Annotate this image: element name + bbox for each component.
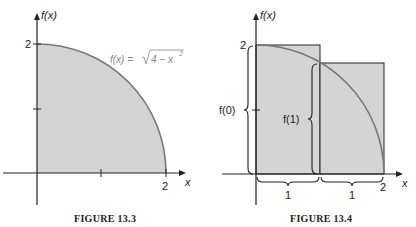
shaded-area [37, 44, 166, 173]
figure-caption: FIGURE 13.3 [74, 213, 136, 224]
x-tick-label: 2 [162, 180, 168, 192]
brace-label-width2: 1 [349, 189, 355, 201]
y-axis-label: f(x) [260, 9, 276, 21]
brace-label-width1: 1 [285, 189, 291, 201]
brace-width1-icon [257, 177, 319, 186]
figure-caption: FIGURE 13.4 [290, 213, 352, 224]
rectangle-f0 [256, 45, 320, 174]
x-axis-label: x [401, 177, 408, 189]
function-equation: f(x) = 4 − x 2 [110, 50, 184, 65]
equation-exponent: 2 [178, 50, 183, 57]
rectangle-f1 [320, 63, 384, 174]
y-tick-label: 2 [240, 39, 246, 51]
brace-label-f0: f(0) [219, 104, 236, 116]
y-axis-arrow-icon [253, 13, 259, 20]
figure-canvas: f(x) 2 2 x f(x) = 4 − x 2 FIGURE 13.3 f(… [0, 0, 416, 227]
figure-13-3: f(x) 2 2 x f(x) = 4 − x 2 FIGURE 13.3 [3, 9, 191, 224]
y-axis-label: f(x) [41, 9, 57, 21]
y-axis-arrow-icon [34, 13, 40, 20]
x-axis-label: x [184, 176, 191, 188]
figure-13-4: f(x) 2 2 x f(0) f(1) 1 1 FIGURE 13.4 [219, 9, 408, 224]
x-tick-label: 2 [380, 181, 386, 193]
y-tick-label: 2 [25, 38, 31, 50]
equation-radicand: 4 − x [151, 54, 174, 65]
brace-f0-icon [244, 46, 253, 174]
equation-lhs: f(x) = [110, 54, 133, 65]
brace-label-f1: f(1) [283, 113, 300, 125]
brace-width2-icon [321, 177, 383, 186]
